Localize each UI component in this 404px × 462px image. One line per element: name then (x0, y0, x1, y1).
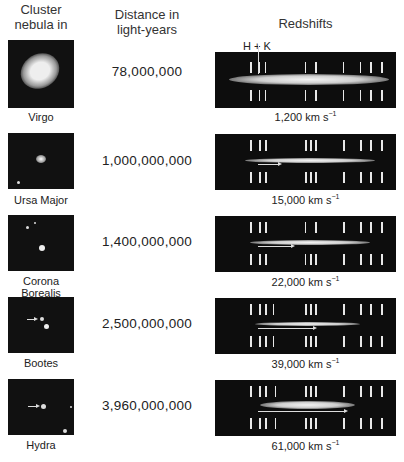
velocity-value: 22,000 km s (272, 276, 332, 288)
spectrum-hydra (215, 380, 396, 436)
velocity-exponent: −1 (331, 193, 339, 200)
spectrum-corona-borealis (215, 216, 396, 272)
distance-corona-borealis: 1,400,000,000 (88, 234, 206, 249)
header-nebula-line2: nebula in (0, 17, 82, 32)
galaxy-name-virgo: Virgo (0, 111, 82, 123)
velocity-hydra: 61,000 km s−1 (215, 439, 396, 452)
galaxy-image-bootes (8, 297, 74, 353)
galaxy-name-hydra: Hydra (0, 439, 82, 451)
velocity-virgo: 1,200 km s−1 (215, 110, 396, 123)
velocity-value: 61,000 km s (272, 440, 332, 452)
galaxy-image-virgo (8, 40, 74, 108)
distance-hydra: 3,960,000,000 (88, 398, 206, 413)
header-distance: Distance in light-years (88, 7, 206, 37)
galaxy-name-line1: Corona (0, 275, 82, 287)
galaxy-image-ursa-major (8, 133, 74, 189)
distance-ursa-major: 1,000,000,000 (88, 153, 206, 168)
velocity-exponent: −1 (331, 357, 339, 364)
velocity-value: 39,000 km s (272, 358, 332, 370)
velocity-exponent: −1 (328, 110, 336, 117)
velocity-bootes: 39,000 km s−1 (215, 357, 396, 370)
velocity-ursa-major: 15,000 km s−1 (215, 193, 396, 206)
hk-arrow-icon (258, 46, 259, 74)
hk-label: H + K (243, 40, 271, 52)
distance-virgo: 78,000,000 (88, 64, 206, 79)
spectrum-bootes (215, 298, 396, 354)
galaxy-image-hydra (8, 379, 74, 435)
velocity-value: 1,200 km s (275, 111, 329, 123)
header-distance-line1: Distance in (88, 7, 206, 22)
galaxy-image-corona-borealis (8, 215, 74, 271)
velocity-exponent: −1 (331, 275, 339, 282)
header-nebula: Cluster nebula in (0, 2, 82, 32)
distance-bootes: 2,500,000,000 (88, 316, 206, 331)
velocity-corona-borealis: 22,000 km s−1 (215, 275, 396, 288)
spectrum-virgo (215, 52, 396, 108)
spectrum-ursa-major (215, 134, 396, 190)
header-nebula-line1: Cluster (0, 2, 82, 17)
header-distance-line2: light-years (88, 22, 206, 37)
velocity-exponent: −1 (331, 439, 339, 446)
galaxy-name-ursa-major: Ursa Major (0, 194, 82, 206)
velocity-value: 15,000 km s (272, 194, 332, 206)
galaxy-name-corona-borealis: Corona Borealis (0, 275, 82, 299)
header-redshifts: Redshifts (215, 16, 396, 31)
galaxy-name-bootes: Bootes (0, 357, 82, 369)
